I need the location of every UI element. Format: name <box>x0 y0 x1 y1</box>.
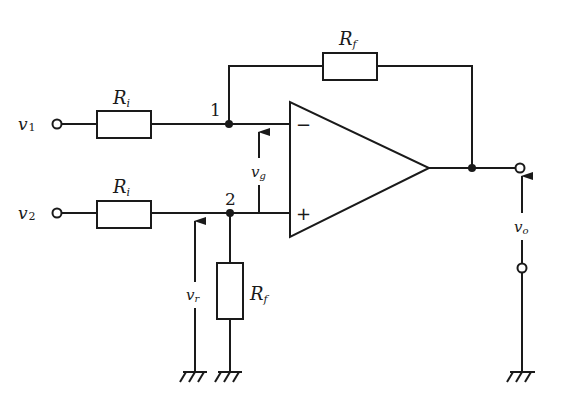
rf-feedback-label: Rf <box>338 28 359 51</box>
circuit-diagram: v1 Ri 1 Rf − + vo <box>0 0 563 410</box>
v2-label: v2 <box>18 203 36 223</box>
v1-label: v1 <box>18 114 36 134</box>
ground-icon-rf <box>215 372 242 382</box>
op-amp: − + <box>290 102 429 237</box>
inverting-input-sign: − <box>296 114 311 135</box>
output-branch: vo <box>429 164 535 383</box>
resistor-ri-bottom <box>97 201 151 228</box>
junction-output <box>468 164 476 172</box>
node-1-label: 1 <box>210 100 221 120</box>
vr-indicator: vr <box>180 221 207 382</box>
resistor-rf-ground <box>217 263 243 319</box>
node-2-label: 2 <box>225 189 236 209</box>
vo-output-terminal[interactable] <box>516 164 525 173</box>
rf-ground-branch: Rf <box>215 213 270 382</box>
vg-label: vg <box>251 163 266 181</box>
non-inverting-input-sign: + <box>296 203 311 224</box>
ri-top-label: Ri <box>112 87 130 110</box>
input-v2-branch: v2 Ri 2 <box>18 176 290 228</box>
resistor-ri-top <box>97 111 151 138</box>
v1-input-terminal[interactable] <box>53 120 62 129</box>
resistor-rf-feedback <box>323 53 377 80</box>
vg-indicator: vg <box>251 132 266 213</box>
ri-bottom-label: Ri <box>112 176 130 199</box>
ground-icon-vr <box>180 372 207 382</box>
vo-ground-terminal[interactable] <box>518 264 527 273</box>
vo-label: vo <box>514 218 529 236</box>
vr-label: vr <box>186 286 200 304</box>
input-v1-branch: v1 Ri 1 <box>18 87 290 138</box>
ground-icon-output <box>507 372 535 382</box>
v2-input-terminal[interactable] <box>53 209 62 218</box>
rf-ground-label: Rf <box>249 283 270 306</box>
